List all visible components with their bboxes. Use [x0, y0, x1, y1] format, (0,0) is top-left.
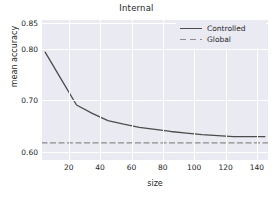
- gridline-horizontal: [42, 49, 268, 50]
- series-line-controlled: [45, 52, 265, 137]
- x-tick-label: 20: [54, 163, 84, 172]
- x-tick-label: 40: [85, 163, 115, 172]
- legend-label-controlled: Controlled: [207, 24, 246, 33]
- legend-swatch-solid-icon: [180, 25, 202, 33]
- legend-swatch-dashed-icon: [180, 36, 202, 44]
- chart-figure: Internal mean accuracy size 0.600.700.80…: [0, 0, 273, 198]
- gridline-vertical: [69, 20, 70, 160]
- x-tick-label: 100: [179, 163, 209, 172]
- gridline-horizontal: [42, 152, 268, 153]
- x-tick-label: 60: [117, 163, 147, 172]
- y-tick-label: 0.80: [4, 44, 42, 53]
- x-tick-label: 120: [211, 163, 241, 172]
- legend-item-global: Global: [180, 34, 262, 45]
- y-tick-label: 0.70: [4, 96, 42, 105]
- x-tick-label: 140: [242, 163, 272, 172]
- legend-label-global: Global: [207, 35, 231, 44]
- y-tick-label: 0.85: [4, 18, 42, 27]
- chart-title: Internal: [0, 3, 273, 13]
- legend-item-controlled: Controlled: [180, 23, 262, 34]
- gridline-vertical: [100, 20, 101, 160]
- gridline-vertical: [163, 20, 164, 160]
- y-tick-label: 0.60: [4, 148, 42, 157]
- x-axis-label: size: [42, 179, 268, 188]
- x-axis-ticks: 20406080100120140: [42, 161, 268, 175]
- x-tick-label: 80: [148, 163, 178, 172]
- gridline-horizontal: [42, 100, 268, 101]
- y-axis-ticks: 0.600.700.800.85: [0, 20, 42, 160]
- chart-legend: Controlled Global: [176, 20, 266, 48]
- gridline-vertical: [132, 20, 133, 160]
